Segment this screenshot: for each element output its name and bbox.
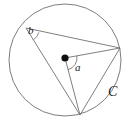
inscribed-angle-label-b: b [28, 25, 34, 36]
geometry-figure: b a C [0, 0, 133, 127]
angle-arc-inscribed-b [33, 32, 39, 40]
chord-right-to-bottom [80, 48, 120, 115]
central-angle-label-a: a [75, 62, 81, 73]
geometry-canvas [0, 0, 133, 127]
center-point-dot [61, 54, 68, 61]
circle-name-label-c: C [108, 85, 117, 99]
radius-center-to-right [65, 48, 120, 58]
chord-upperleft-to-bottom [26, 28, 80, 115]
chord-upperleft-to-right [26, 28, 120, 48]
